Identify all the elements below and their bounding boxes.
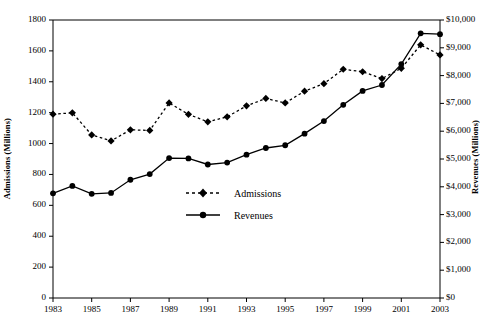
legend-label-admissions: Admissions xyxy=(234,188,281,199)
series-revenues xyxy=(50,30,443,196)
legend-label-revenues: Revenues xyxy=(234,210,273,221)
data-series-layer xyxy=(49,30,443,196)
chart-legend: Admissions Revenues xyxy=(186,182,281,226)
plot-area xyxy=(0,0,484,326)
legend-key-solid-circle-icon xyxy=(186,209,220,221)
axis-lines xyxy=(53,20,440,298)
chart-container: Admissions (Millions) Revenues (Millions… xyxy=(0,0,484,326)
legend-item-admissions: Admissions xyxy=(186,182,281,204)
tick-marks xyxy=(49,20,444,302)
series-admissions xyxy=(49,41,443,144)
legend-item-revenues: Revenues xyxy=(186,204,281,226)
legend-key-dashed-diamond-icon xyxy=(186,187,220,199)
